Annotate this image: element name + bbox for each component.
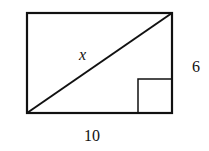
diagonal-line — [27, 13, 172, 113]
diagonal-label: x — [79, 47, 86, 63]
right-angle-marker — [138, 79, 172, 113]
rectangle-diagram — [0, 0, 209, 151]
width-label: 10 — [84, 128, 100, 144]
height-label: 6 — [192, 59, 200, 75]
